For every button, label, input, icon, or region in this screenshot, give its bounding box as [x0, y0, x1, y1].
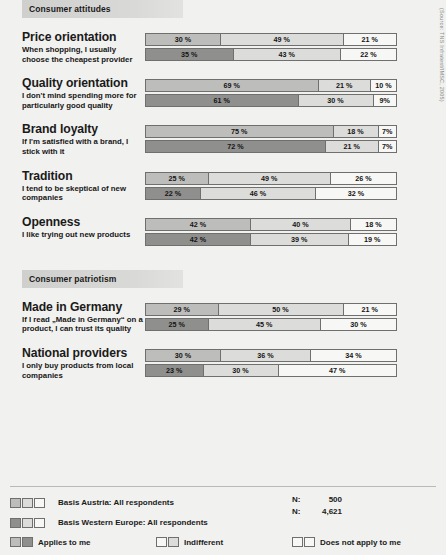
bar-austria: 30 %36 %34 % [145, 349, 397, 362]
bar-segment: 9% [374, 95, 397, 106]
chart-row: Price orientationWhen shopping, I usuall… [0, 31, 446, 64]
n-value: 4,621 [308, 507, 342, 516]
bar-segment: 10 % [371, 80, 396, 91]
swatch-not-apply-icon [304, 537, 315, 547]
row-labels: OpennessI like trying out new products [0, 216, 145, 240]
bar-segment: 61 % [146, 95, 299, 106]
legend: Basis Austria: All respondents Basis Wes… [0, 486, 446, 555]
legend-key-label: Indifferent [184, 538, 223, 547]
bar-segment: 29 % [146, 304, 219, 315]
row-labels: Brand loyaltyIf I'm satisfied with a bra… [0, 123, 145, 156]
row-title: Price orientation [22, 31, 145, 44]
swatch-not-apply-icon [292, 537, 303, 547]
row-subtitle: I like trying out new products [22, 230, 145, 240]
legend-basis-swatches-austria [10, 493, 54, 511]
bar-segment: 49 % [209, 173, 332, 184]
bar-austria: 75 %18 %7% [145, 125, 397, 138]
bar-segment: 30 % [146, 34, 221, 45]
swatch-indifferent-light-icon [156, 537, 167, 547]
bar-western-europe: 61 %30 %9% [145, 94, 397, 107]
chart-row: Quality orientationI don't mind spending… [0, 77, 446, 110]
swatch-applies-austria-icon [10, 537, 21, 547]
swatch-not-apply-icon [34, 498, 45, 508]
section-heading: Consumer patriotism [22, 270, 183, 288]
bar-segment: 45 % [209, 319, 322, 330]
bar-segment: 50 % [219, 304, 344, 315]
bar-segment: 43 % [234, 49, 342, 60]
swatch-applies-icon [10, 498, 21, 508]
legend-basis-label: Basis Austria: All respondents [58, 498, 174, 507]
bar-segment: 30 % [146, 350, 221, 361]
chart-row: Made in GermanyIf I read „Made in German… [0, 301, 446, 334]
n-value: 500 [308, 495, 342, 504]
bar-segment: 49 % [221, 34, 344, 45]
swatch-indifferent-icon [22, 498, 33, 508]
bar-segment: 42 % [146, 219, 251, 230]
legend-basis-list: Basis Austria: All respondents Basis Wes… [10, 493, 436, 531]
bar-segment: 18 % [334, 126, 379, 137]
legend-n-values: N:500 N:4,621 [292, 495, 342, 519]
bar-segment: 21 % [344, 34, 397, 45]
row-bars: 30 %49 %21 %35 %43 %22 % [145, 31, 397, 63]
row-labels: Made in GermanyIf I read „Made in German… [0, 301, 145, 334]
bar-segment: 21 % [344, 304, 397, 315]
bar-segment: 23 % [146, 365, 204, 376]
row-bars: 75 %18 %7%72 %21 %7% [145, 123, 397, 155]
bar-segment: 21 % [319, 80, 372, 91]
bar-segment: 34 % [311, 350, 396, 361]
bar-segment: 22 % [341, 49, 396, 60]
row-title: Made in Germany [22, 301, 145, 314]
bar-austria: 42 %40 %18 % [145, 218, 397, 231]
legend-key-label: Applies to me [38, 538, 90, 547]
bar-western-europe: 35 %43 %22 % [145, 48, 397, 61]
row-subtitle: I don't mind spending more for particula… [22, 91, 145, 110]
bar-segment: 30 % [299, 95, 374, 106]
bar-segment: 69 % [146, 80, 319, 91]
row-subtitle: I only buy products from local companies [22, 361, 145, 380]
bar-segment: 7% [379, 126, 397, 137]
bar-segment: 39 % [251, 234, 349, 245]
legend-key-indifferent: Indifferent [156, 537, 292, 547]
bar-austria: 69 %21 %10 % [145, 79, 397, 92]
chart-row: OpennessI like trying out new products42… [0, 216, 446, 248]
row-labels: Price orientationWhen shopping, I usuall… [0, 31, 145, 64]
bar-segment: 30 % [321, 319, 396, 330]
row-subtitle: I tend to be skeptical of new companies [22, 184, 145, 203]
row-title: Brand loyalty [22, 123, 145, 136]
sections-container: Consumer attitudesPrice orientationWhen … [0, 0, 446, 380]
bar-segment: 32 % [316, 188, 396, 199]
legend-key-does-not-apply: Does not apply to me [292, 537, 401, 547]
chart-row: TraditionI tend to be skeptical of new c… [0, 170, 446, 203]
source-note: (Source: TNS Infratest/IMSC, 2005) [439, 8, 445, 102]
legend-key-row: Applies to me Indifferent Does not apply… [10, 537, 436, 547]
n-label: N: [292, 495, 308, 504]
bar-segment: 35 % [146, 49, 234, 60]
bar-segment: 40 % [251, 219, 351, 230]
chart-row: Brand loyaltyIf I'm satisfied with a bra… [0, 123, 446, 156]
section-heading: Consumer attitudes [22, 0, 183, 18]
row-bars: 42 %40 %18 %42 %39 %19 % [145, 216, 397, 248]
row-bars: 29 %50 %21 %25 %45 %30 % [145, 301, 397, 333]
legend-key-label: Does not apply to me [320, 538, 401, 547]
bar-western-europe: 22 %46 %32 % [145, 187, 397, 200]
n-row: N:500 [292, 495, 342, 504]
swatch-indifferent-icon [22, 518, 33, 528]
row-labels: National providersI only buy products fr… [0, 347, 145, 380]
bar-austria: 30 %49 %21 % [145, 33, 397, 46]
row-title: Quality orientation [22, 77, 145, 90]
bar-segment: 36 % [221, 350, 311, 361]
bar-western-europe: 25 %45 %30 % [145, 318, 397, 331]
row-bars: 69 %21 %10 %61 %30 %9% [145, 77, 397, 109]
row-title: National providers [22, 347, 145, 360]
bar-western-europe: 23 %30 %47 % [145, 364, 397, 377]
section-spacer [0, 248, 446, 270]
swatch-applies-icon [10, 518, 21, 528]
row-bars: 25 %49 %26 %22 %46 %32 % [145, 170, 397, 202]
bar-segment: 46 % [201, 188, 316, 199]
bar-segment: 18 % [351, 219, 396, 230]
bar-segment: 75 % [146, 126, 334, 137]
bar-segment: 7% [379, 141, 397, 152]
bar-segment: 25 % [146, 319, 209, 330]
bar-segment: 47 % [279, 365, 397, 376]
bar-segment: 26 % [331, 173, 396, 184]
